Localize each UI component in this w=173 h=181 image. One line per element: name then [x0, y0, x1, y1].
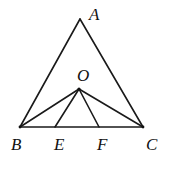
vertex-dot-B — [19, 126, 22, 129]
segment-OE — [55, 89, 79, 127]
label-A: A — [88, 5, 100, 24]
label-B: B — [11, 135, 22, 154]
label-E: E — [53, 135, 65, 154]
segment-AB — [20, 19, 80, 127]
label-O: O — [77, 66, 89, 85]
vertex-dot-C — [142, 126, 145, 129]
vertex-dot-O — [77, 87, 80, 90]
geometry-diagram: A O B E F C — [0, 0, 173, 181]
label-C: C — [146, 135, 158, 154]
label-F: F — [96, 135, 108, 154]
segment-AC — [80, 19, 143, 127]
segment-OB — [20, 89, 79, 127]
